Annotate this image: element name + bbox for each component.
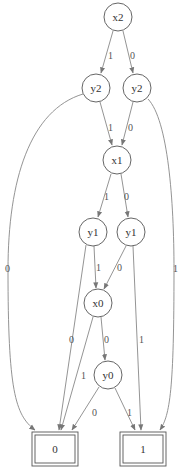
terminal-0: 0 — [32, 432, 78, 466]
edge-label-y2right-t1: 1 — [173, 263, 178, 274]
edge-y2left-t0 — [8, 94, 83, 430]
edge-y0-t1 — [115, 388, 135, 430]
edge-label-y1left-x0: 1 — [96, 262, 101, 273]
edge-label-x0-y0: 0 — [104, 334, 109, 345]
terminal-1: 1 — [120, 432, 166, 466]
bdd-diagram: 1 0 1 0 0 1 1 0 1 0 0 1 0 1 0 1 x2 y2 y2… — [0, 0, 184, 475]
node-label-y0: y0 — [103, 369, 115, 381]
node-y1-left: y1 — [79, 218, 107, 246]
edge-y1right-x0 — [104, 246, 126, 289]
edge-label-y2left-x1: 1 — [108, 122, 113, 133]
node-label-x2: x2 — [113, 11, 124, 23]
node-y2-right: y2 — [123, 74, 151, 102]
edge-label-x0-t0: 1 — [81, 370, 86, 381]
edge-label-y0-t1: 1 — [127, 407, 132, 418]
edge-x0-t0 — [61, 317, 93, 430]
node-label-y1-left: y1 — [88, 226, 99, 238]
edge-label-x1-y1-right: 0 — [124, 191, 129, 202]
edge-label-y0-t0: 0 — [92, 407, 97, 418]
edge-label-x1-y1-left: 1 — [104, 191, 109, 202]
terminal-label-1: 1 — [140, 443, 146, 455]
edge-label-y2left-t0: 0 — [5, 263, 10, 274]
node-x2: x2 — [104, 3, 132, 31]
node-label-y2-right: y2 — [132, 82, 143, 94]
edge-y2right-t1 — [148, 99, 174, 430]
node-label-x1: x1 — [112, 154, 123, 166]
edge-label-y1left-t0: 0 — [69, 334, 74, 345]
node-y2-left: y2 — [82, 74, 110, 102]
node-label-y2-left: y2 — [91, 82, 102, 94]
edge-label-y1right-t1: 1 — [139, 334, 144, 345]
edge-label-x2-y2-left: 1 — [108, 50, 113, 61]
node-y0: y0 — [94, 361, 122, 389]
edge-label-y2right-x1: 0 — [128, 122, 133, 133]
edge-label-y1right-x0: 0 — [117, 262, 122, 273]
node-label-x0: x0 — [93, 297, 105, 309]
node-label-y1-right: y1 — [126, 226, 137, 238]
node-y1-right: y1 — [117, 218, 145, 246]
node-x0: x0 — [84, 289, 112, 317]
node-x1: x1 — [103, 146, 131, 174]
terminal-label-0: 0 — [52, 443, 58, 455]
edge-label-x2-y2-right: 0 — [130, 50, 135, 61]
